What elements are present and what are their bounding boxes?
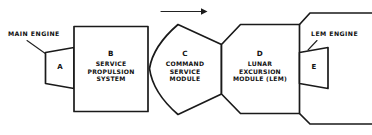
module-b-line-3: SYSTEM bbox=[74, 75, 148, 82]
module-d-code: D bbox=[224, 50, 296, 59]
module-label-e: E bbox=[306, 64, 322, 71]
module-d-line-1: LUNAR bbox=[224, 60, 296, 67]
module-b-code: B bbox=[74, 50, 148, 59]
main-engine-leader-line bbox=[27, 41, 46, 55]
module-c-line-3: MODULE bbox=[155, 75, 215, 82]
module-d-line-2: EXCURSION bbox=[224, 68, 296, 75]
direction-of-travel-arrow bbox=[161, 8, 208, 14]
module-label-d: D LUNAR EXCURSION MODULE (LEM) bbox=[224, 50, 296, 83]
lem-engine-leader-line bbox=[308, 41, 317, 51]
module-label-c: C COMMAND SERVICE MODULE bbox=[155, 50, 215, 83]
callout-label-main-engine: MAIN ENGINE bbox=[8, 31, 60, 38]
module-b-line-1: SERVICE bbox=[74, 60, 148, 67]
module-c-line-2: SERVICE bbox=[155, 68, 215, 75]
module-label-b: B SERVICE PROPULSION SYSTEM bbox=[74, 50, 148, 83]
module-label-a: A bbox=[52, 64, 68, 71]
module-c-line-1: COMMAND bbox=[155, 60, 215, 67]
module-b-line-2: PROPULSION bbox=[74, 68, 148, 75]
module-c-code: C bbox=[155, 50, 215, 59]
spacecraft-diagram: MAIN ENGINE LEM ENGINE A B SERVICE PROPU… bbox=[0, 0, 372, 135]
callout-label-lem-engine: LEM ENGINE bbox=[311, 31, 358, 38]
module-d-line-3: MODULE (LEM) bbox=[224, 75, 296, 82]
